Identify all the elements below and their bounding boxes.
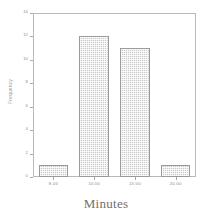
y-axis-tick-label: 14 <box>23 9 28 14</box>
x-axis-tick-mark <box>176 177 177 180</box>
x-axis-tick-label: 8.00 <box>39 181 67 186</box>
x-axis-title: Minutes <box>0 196 212 212</box>
x-axis-tick-label: 15.00 <box>121 181 149 186</box>
y-axis-tick-label: 2 <box>26 150 28 155</box>
y-axis-tick-label: 0 <box>26 173 28 178</box>
bar <box>79 36 108 177</box>
y-axis: 02468101214 <box>0 13 33 177</box>
bar <box>120 48 149 177</box>
bar <box>39 165 68 177</box>
y-axis-tick-label: 8 <box>26 79 28 84</box>
y-axis-title: Frequency <box>7 34 13 104</box>
bars-layer <box>33 13 196 177</box>
x-axis: 8.0010.0015.0020.00 <box>33 177 196 191</box>
x-axis-tick-mark <box>94 177 95 180</box>
x-axis-tick-mark <box>53 177 54 180</box>
x-axis-tick-label: 10.00 <box>80 181 108 186</box>
x-axis-tick-mark <box>135 177 136 180</box>
y-axis-tick-label: 6 <box>26 103 28 108</box>
y-axis-tick-label: 12 <box>23 32 28 37</box>
y-axis-tick-label: 10 <box>23 56 28 61</box>
bar <box>161 165 190 177</box>
x-axis-tick-label: 20.00 <box>162 181 190 186</box>
histogram-chart: 02468101214 Frequency 8.0010.0015.0020.0… <box>0 0 212 217</box>
y-axis-tick-label: 4 <box>26 126 28 131</box>
